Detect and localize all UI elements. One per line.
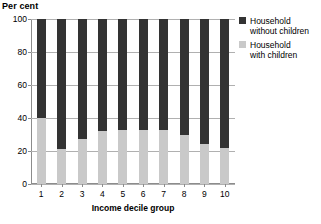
bar-segment[interactable] [37,19,46,118]
bar-segment[interactable] [220,19,229,148]
x-axis-tick-mark [225,184,226,187]
bar-segment[interactable] [78,19,87,139]
legend-label: Household [250,16,319,26]
y-axis-tick-label: 60 [1,81,27,90]
bar-group[interactable] [220,19,229,184]
legend-label: with children [250,50,319,60]
y-axis-unit-label: Per cent [2,1,38,12]
y-axis-tick-label: 80 [1,48,27,57]
bar-group[interactable] [200,19,209,184]
bar-segment[interactable] [159,130,168,184]
x-axis-tick-mark [204,184,205,187]
x-axis-tick-label: 5 [120,189,125,199]
bar-group[interactable] [78,19,87,184]
bar-segment[interactable] [139,19,148,130]
bar-segment[interactable] [118,130,127,184]
x-axis-tick-mark [62,184,63,187]
bar-segment[interactable] [118,19,127,130]
x-axis-tick-label: 8 [182,189,187,199]
x-axis-tick-label: 9 [202,189,207,199]
y-axis-tick-label: 100 [1,15,27,24]
bar-segment[interactable] [220,148,229,184]
bar-group[interactable] [98,19,107,184]
x-axis-tick-label: 3 [80,189,85,199]
legend-swatch-icon [239,17,246,24]
y-axis-tick-label: 20 [1,147,27,156]
bar-group[interactable] [159,19,168,184]
x-axis-tick-mark [41,184,42,187]
legend-swatch-icon [239,41,246,48]
x-axis-tick-label: 4 [100,189,105,199]
bar-segment[interactable] [57,149,66,184]
legend-label: without children [250,26,319,36]
legend-entry[interactable]: Householdwith children [239,40,319,60]
chart-legend: Householdwithout childrenHouseholdwith c… [239,16,319,64]
bar-segment[interactable] [200,144,209,184]
bars-layer [31,19,235,184]
x-axis-tick-mark [102,184,103,187]
x-axis-tick-label: 2 [59,189,64,199]
x-axis-tick-label: 6 [141,189,146,199]
y-axis-tick-label: 40 [1,114,27,123]
bar-segment[interactable] [139,130,148,184]
plot-area: 020406080100 12345678910 [31,19,235,184]
y-axis-tick-mark [28,184,31,185]
bar-group[interactable] [37,19,46,184]
bar-segment[interactable] [98,131,107,184]
x-axis-tick-mark [82,184,83,187]
bar-segment[interactable] [159,19,168,130]
legend-entry[interactable]: Householdwithout children [239,16,319,36]
bar-segment[interactable] [37,118,46,184]
bar-segment[interactable] [98,19,107,131]
y-axis-tick-label: 0 [1,180,27,189]
bar-segment[interactable] [180,135,189,185]
x-axis-tick-mark [184,184,185,187]
bar-segment[interactable] [180,19,189,135]
bar-segment[interactable] [57,19,66,149]
bar-group[interactable] [57,19,66,184]
bar-group[interactable] [118,19,127,184]
bar-segment[interactable] [200,19,209,144]
x-axis-title: Income decile group [31,203,235,213]
x-axis-tick-mark [143,184,144,187]
x-axis-tick-label: 1 [39,189,44,199]
x-axis-tick-mark [123,184,124,187]
bar-group[interactable] [180,19,189,184]
x-axis-tick-mark [164,184,165,187]
bar-group[interactable] [139,19,148,184]
legend-label: Household [250,40,319,50]
x-axis-tick-label: 7 [161,189,166,199]
x-axis-tick-label: 10 [220,189,229,199]
percent-stacked-bar-chart: Per cent 020406080100 12345678910 Income… [0,0,321,224]
bar-segment[interactable] [78,139,87,184]
